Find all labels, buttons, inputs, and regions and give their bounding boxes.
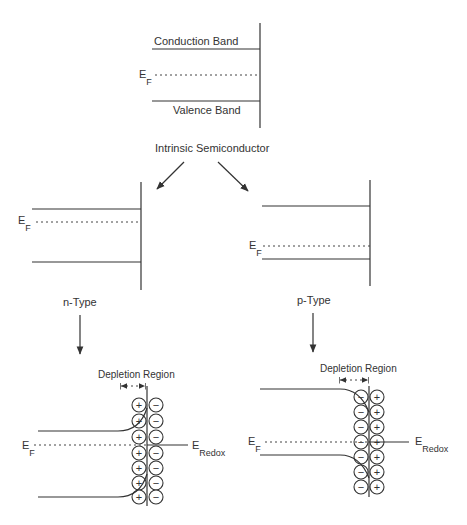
arrow-to-p-type — [218, 162, 248, 191]
arrow-to-n-type — [157, 162, 184, 189]
p-depletion-label: Depletion Region — [320, 363, 397, 374]
intrinsic-diagram: Conduction Band EF Valence Band Intrinsi… — [139, 23, 270, 154]
p-fermi-label: EF — [248, 435, 261, 454]
conduction-band-label: Conduction Band — [154, 35, 238, 47]
svg-text:−: − — [153, 399, 159, 411]
svg-text:+: + — [136, 491, 142, 503]
svg-text:+: + — [136, 462, 142, 474]
n-bent-conduction-band — [38, 408, 147, 431]
svg-text:+: + — [374, 406, 380, 418]
svg-text:−: − — [153, 447, 159, 459]
n-type-diagram: EF n-Type — [18, 182, 141, 308]
svg-text:−: − — [358, 406, 364, 418]
p-redox-label: ERedox — [415, 435, 449, 454]
svg-text:−: − — [153, 491, 159, 503]
semiconductor-band-diagram: Conduction Band EF Valence Band Intrinsi… — [0, 0, 467, 525]
p-bent-valence-band — [260, 455, 369, 478]
svg-text:+: + — [136, 399, 142, 411]
p-type-caption: p-Type — [297, 294, 331, 306]
svg-text:+: + — [374, 466, 380, 478]
n-bent-valence-band — [38, 474, 147, 497]
svg-text:+: + — [136, 477, 142, 489]
n-type-junction-diagram: Depletion Region + + + + + + + − − − − −… — [22, 369, 226, 506]
n-fermi-label: EF — [22, 439, 35, 458]
svg-text:−: − — [358, 421, 364, 433]
svg-text:−: − — [153, 477, 159, 489]
p-type-fermi-label: EF — [249, 239, 262, 258]
svg-text:−: − — [153, 462, 159, 474]
p-bent-conduction-band — [260, 389, 369, 412]
svg-text:−: − — [358, 451, 364, 463]
svg-text:−: − — [153, 431, 159, 443]
svg-text:+: + — [136, 447, 142, 459]
n-redox-label: ERedox — [192, 439, 226, 458]
svg-text:+: + — [374, 421, 380, 433]
svg-text:+: + — [374, 481, 380, 493]
n-negative-charges: − − − − − − − — [149, 398, 163, 504]
intrinsic-fermi-label: EF — [139, 68, 152, 87]
svg-text:+: + — [374, 451, 380, 463]
svg-text:−: − — [358, 481, 364, 493]
p-type-diagram: EF p-Type — [249, 180, 370, 306]
n-type-caption: n-Type — [63, 296, 97, 308]
svg-text:+: + — [136, 431, 142, 443]
n-depletion-label: Depletion Region — [98, 369, 175, 380]
intrinsic-caption: Intrinsic Semiconductor — [155, 142, 270, 154]
svg-text:+: + — [374, 391, 380, 403]
valence-band-label: Valence Band — [173, 104, 241, 116]
n-type-fermi-label: EF — [18, 214, 31, 233]
svg-text:−: − — [153, 415, 159, 427]
p-type-junction-diagram: Depletion Region − − − − − − − + + + + +… — [248, 363, 449, 497]
